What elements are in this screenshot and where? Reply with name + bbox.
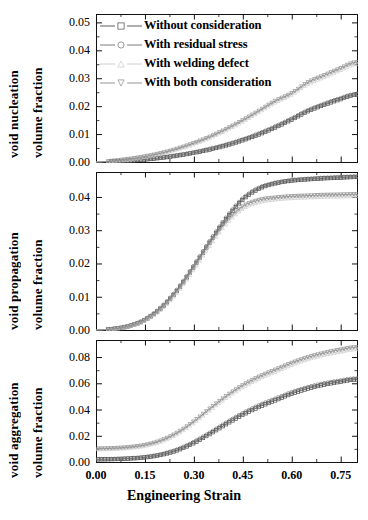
y-tick-label: 0.02 <box>46 99 90 114</box>
y-tick-label: 0.03 <box>46 71 90 86</box>
legend-triangle-up-icon <box>98 56 144 72</box>
panel-void-propagation <box>96 172 358 331</box>
y-tick-label: 0.03 <box>46 223 90 238</box>
legend-circle-icon <box>98 37 144 53</box>
x-tick-label: 0.00 <box>76 468 116 483</box>
y-tick-label: 0.02 <box>46 429 90 444</box>
x-tick-label: 0.75 <box>321 468 361 483</box>
panel-nucleation-ylabel-line2: volume fraction <box>30 18 46 158</box>
legend-triangle-down-icon <box>98 75 144 91</box>
y-tick-label: 0.04 <box>46 190 90 205</box>
y-tick-label: 0.05 <box>46 15 90 30</box>
panel-void-aggregation <box>96 340 358 463</box>
legend-item: With welding defect <box>98 54 271 73</box>
legend-label: With welding defect <box>144 56 249 71</box>
panel-aggregation-ylabel-line1: void aggregation <box>6 338 22 478</box>
y-tick-label: 0.02 <box>46 256 90 271</box>
x-tick-label: 0.60 <box>272 468 312 483</box>
x-tick-label: 0.30 <box>174 468 214 483</box>
y-tick-label: 0.01 <box>46 127 90 142</box>
y-tick-label: 0.04 <box>46 43 90 58</box>
legend-label: With both consideration <box>144 75 271 90</box>
y-tick-label: 0.06 <box>46 376 90 391</box>
y-tick-label: 0.00 <box>46 323 90 338</box>
x-tick-label: 0.15 <box>125 468 165 483</box>
y-tick-label: 0.08 <box>46 350 90 365</box>
y-tick-label: 0.00 <box>46 155 90 170</box>
figure-canvas: void nucleation volume fraction void pro… <box>0 0 368 520</box>
y-tick-label: 0.04 <box>46 403 90 418</box>
y-tick-label: 0.00 <box>46 455 90 470</box>
legend-label: With residual stress <box>144 37 248 52</box>
legend-item: With residual stress <box>98 35 271 54</box>
panel-nucleation-ylabel-line1: void nucleation <box>6 18 22 158</box>
panel-propagation-ylabel-line2: volume fraction <box>30 180 46 330</box>
panel-propagation-ylabel-line1: void propagation <box>6 180 22 330</box>
legend-item: With both consideration <box>98 73 271 92</box>
legend-item: Without consideration <box>98 16 271 35</box>
legend-label: Without consideration <box>144 18 261 33</box>
legend-square-icon <box>98 18 144 34</box>
y-tick-label: 0.01 <box>46 290 90 305</box>
x-axis-label: Engineering Strain <box>0 488 368 504</box>
legend: Without consideration With residual stre… <box>98 16 271 92</box>
panel-aggregation-ylabel-line2: volume fraction <box>30 338 46 478</box>
x-tick-label: 0.45 <box>223 468 263 483</box>
